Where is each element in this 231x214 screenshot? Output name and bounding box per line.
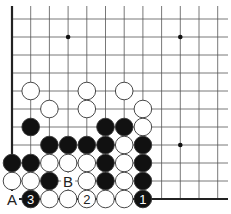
black-stone (134, 154, 152, 172)
white-stone (78, 82, 96, 100)
white-stone (22, 172, 40, 190)
white-stone (134, 100, 152, 118)
white-stone (115, 190, 133, 208)
black-stone (22, 118, 40, 136)
point-label-b: B (63, 173, 73, 190)
white-stone (41, 100, 59, 118)
star-point (66, 35, 71, 40)
white-stone (115, 136, 133, 154)
white-stone (78, 154, 96, 172)
move-number-1: 1 (139, 192, 146, 207)
black-stone (78, 136, 96, 154)
move-number-2: 2 (83, 192, 90, 207)
point-label-a: A (7, 191, 17, 208)
black-stone (59, 136, 77, 154)
white-stone (115, 154, 133, 172)
white-stone (78, 100, 96, 118)
black-stone (97, 136, 115, 154)
white-stone (41, 190, 59, 208)
go-board-diagram: 321 AB (0, 0, 231, 214)
white-stone (115, 82, 133, 100)
white-stone (97, 190, 115, 208)
black-stone (134, 136, 152, 154)
black-stone (134, 172, 152, 190)
white-stone (41, 154, 59, 172)
star-point (178, 35, 183, 40)
white-stone (59, 190, 77, 208)
white-stone (59, 154, 77, 172)
black-stone (115, 118, 133, 136)
black-stone (97, 154, 115, 172)
black-stone (97, 118, 115, 136)
white-stone (115, 172, 133, 190)
black-stone (41, 172, 59, 190)
move-number-3: 3 (27, 192, 34, 207)
star-point (178, 143, 183, 148)
black-stone (3, 154, 21, 172)
white-stone (3, 172, 21, 190)
black-stone (22, 154, 40, 172)
white-stone (22, 82, 40, 100)
black-stone (97, 172, 115, 190)
white-stone (134, 118, 152, 136)
white-stone (78, 172, 96, 190)
black-stone (41, 136, 59, 154)
